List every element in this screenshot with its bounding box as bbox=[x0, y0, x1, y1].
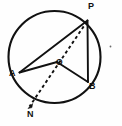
stray-dot-right bbox=[110, 46, 112, 48]
vertex-label-B: B bbox=[89, 82, 96, 91]
vertex-label-P: P bbox=[88, 2, 94, 11]
segment-chord-PB bbox=[88, 21, 89, 83]
vertex-label-O: O bbox=[56, 58, 63, 67]
vertex-label-A: A bbox=[9, 69, 16, 78]
figure-root: P A O B N bbox=[0, 0, 122, 126]
segment-chord-AP bbox=[20, 21, 88, 73]
vertex-label-N: N bbox=[27, 110, 34, 119]
